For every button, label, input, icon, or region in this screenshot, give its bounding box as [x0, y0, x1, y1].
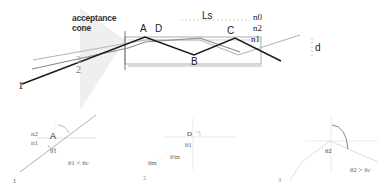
panel3-index: 3 — [278, 177, 281, 183]
point-d-label: D — [155, 24, 162, 34]
acceptance-label-line1: acceptance — [72, 14, 116, 23]
n1-label: n1 — [251, 35, 260, 44]
d-label: d — [315, 43, 321, 53]
ray-1-label: 1 — [18, 80, 24, 91]
ray-2-label: 2 — [76, 65, 81, 75]
point-b-label: B — [191, 57, 198, 67]
panel1-n2-label: n2 — [31, 131, 38, 138]
panel1-arc-top — [58, 125, 69, 133]
panel2-index: 2 — [143, 175, 146, 181]
panel1-n1-label: n1 — [31, 140, 38, 147]
panel2-theta-m-prime: θ'm — [170, 154, 180, 161]
diagram-canvas — [0, 0, 388, 191]
n0-label: n0 — [253, 13, 262, 22]
panel2-theta-m: θm — [148, 160, 157, 167]
ray-1 — [22, 37, 281, 84]
ray-3-label: 3 — [76, 55, 81, 65]
panel1-theta1: θ1 — [50, 148, 57, 155]
panel1-condition: θ1 < θc — [68, 160, 89, 167]
panel2-point-d: D — [187, 131, 192, 138]
acceptance-label-line2: cone — [72, 24, 91, 33]
panel1-index: 1 — [13, 178, 16, 184]
ls-label: Ls — [202, 11, 213, 21]
panel3-ray — [290, 141, 378, 180]
point-a-label: A — [140, 24, 147, 34]
panel3-theta2: θ2 — [325, 148, 332, 155]
n2-label: n2 — [253, 24, 262, 33]
panel1-point-a: A — [50, 132, 56, 141]
panel3-condition: θ2 > θc — [350, 167, 371, 174]
panel2-theta1: θ1 — [185, 142, 192, 149]
point-c-label: C — [227, 26, 234, 36]
panel2-right-angle — [196, 132, 200, 136]
